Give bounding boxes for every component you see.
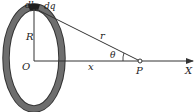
label-r-distance: r bbox=[100, 30, 106, 41]
label-dq: dq bbox=[44, 1, 56, 11]
label-x-axis: X bbox=[184, 65, 193, 76]
label-x-distance: x bbox=[88, 61, 94, 72]
label-theta: θ bbox=[110, 50, 116, 60]
label-origin: O bbox=[22, 61, 30, 72]
point-p bbox=[138, 59, 142, 63]
angle-theta-arc bbox=[123, 53, 124, 61]
label-r-radius: R bbox=[25, 31, 34, 42]
ring-field-diagram: dl dq R O x r θ P X bbox=[0, 0, 195, 112]
label-dl: dl bbox=[25, 0, 34, 10]
label-point-p: P bbox=[135, 65, 143, 76]
